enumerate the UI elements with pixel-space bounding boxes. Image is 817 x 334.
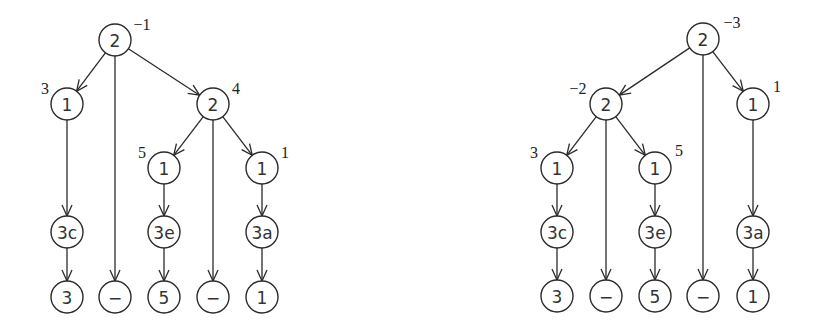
tree-node: 1: [246, 281, 278, 313]
edge-b1-c3e: [159, 184, 169, 216]
node-label: 2: [208, 95, 219, 115]
node-annotation: −3: [723, 14, 740, 31]
node-label: 1: [159, 159, 170, 179]
node-label: 5: [159, 288, 170, 308]
node-label: 3e: [644, 223, 665, 243]
tree-node: 13: [41, 80, 83, 121]
edge-r-b: [713, 52, 743, 92]
node-label: 1: [257, 159, 268, 179]
tree-node: 13: [530, 144, 573, 185]
tree-node: −: [687, 280, 719, 312]
node-annotation: 1: [281, 144, 289, 161]
tree-node: 5: [639, 280, 671, 312]
node-label: 3: [62, 288, 73, 308]
edge-c3a-l5: [748, 248, 758, 280]
tree-node: 2−2: [569, 80, 622, 121]
node-annotation: 3: [41, 80, 49, 97]
node-label: 3a: [742, 223, 763, 243]
node-label: 1: [62, 95, 73, 115]
node-label: 2: [698, 30, 709, 50]
node-label: 3: [552, 287, 563, 307]
edge-r-a: [77, 53, 106, 91]
edge-line: [77, 53, 106, 91]
node-label: 3c: [547, 223, 567, 243]
edge-line: [174, 117, 204, 156]
tree-node: 3a: [737, 216, 769, 248]
tree-node: 3e: [639, 216, 671, 248]
node-label: 1: [257, 288, 268, 308]
right-tree: 2−32−21113153c3e3a3−5−1: [530, 14, 781, 313]
edge-line: [619, 48, 689, 95]
edge-a-a1: [567, 117, 597, 156]
node-annotation: 1: [773, 78, 781, 95]
tree-node: 3a: [246, 216, 278, 248]
node-annotation: 5: [675, 142, 683, 159]
node-label: −: [696, 287, 710, 307]
edge-a-c3c: [62, 120, 72, 216]
edge-c3e-l3: [650, 248, 660, 280]
tree-node: 15: [138, 144, 180, 185]
tree-node: 3c: [51, 216, 83, 248]
tree-node: −: [99, 281, 131, 313]
edge-c3a-l5: [257, 248, 267, 281]
node-label: 2: [110, 31, 121, 51]
node-label: 1: [650, 159, 661, 179]
edge-b-b1: [174, 117, 204, 156]
tree-node: 3: [541, 280, 573, 312]
node-label: 3e: [153, 223, 174, 243]
tree-node: 5: [148, 281, 180, 313]
edge-r-l2: [110, 56, 120, 281]
edge-b-l4: [208, 120, 218, 281]
edge-line: [616, 117, 646, 156]
edge-b-b2: [223, 117, 253, 156]
tree-node: −: [197, 281, 229, 313]
left-tree: 2−1132415113c3e3a3−5−1: [41, 16, 289, 314]
edge-line: [567, 117, 597, 156]
node-label: 3a: [251, 223, 272, 243]
tree-node: 3e: [148, 216, 180, 248]
edge-line: [128, 49, 199, 96]
node-annotation: −2: [569, 80, 586, 97]
tree-node: 15: [639, 142, 683, 185]
edge-a2-c3e: [650, 184, 660, 216]
edge-a-a2: [616, 117, 646, 156]
tree-node: 2−3: [687, 14, 741, 56]
node-label: 5: [650, 287, 661, 307]
edge-r-b: [128, 49, 199, 96]
edge-a-l2: [601, 120, 611, 280]
tree-node: −: [590, 280, 622, 312]
node-label: 1: [748, 287, 759, 307]
tree-node: 11: [737, 78, 781, 121]
edge-line: [713, 52, 743, 92]
edge-c3c-l1: [62, 248, 72, 281]
node-label: 3c: [57, 223, 77, 243]
edge-line: [223, 117, 253, 156]
edge-b-c3a: [748, 120, 758, 216]
tree-node: 3: [51, 281, 83, 313]
tree-node: 2−1: [99, 16, 151, 57]
node-label: 2: [601, 95, 612, 115]
tree-node: 3c: [541, 216, 573, 248]
node-annotation: 4: [232, 80, 240, 97]
node-label: 1: [748, 95, 759, 115]
node-annotation: 5: [138, 144, 146, 161]
tree-diagram: 2−1132415113c3e3a3−5−1 2−32−21113153c3e3…: [0, 0, 817, 334]
edge-r-a: [619, 48, 689, 95]
edge-b2-c3a: [257, 184, 267, 216]
tree-node: 11: [246, 144, 289, 185]
edge-c3c-l1: [552, 248, 562, 280]
tree-node: 1: [737, 280, 769, 312]
node-label: −: [206, 288, 220, 308]
node-annotation: −1: [133, 16, 150, 33]
tree-node: 24: [197, 80, 240, 121]
node-annotation: 3: [530, 144, 538, 161]
edge-r-l4: [698, 55, 708, 280]
node-label: 1: [552, 159, 563, 179]
edge-c3e-l3: [159, 248, 169, 281]
edge-a1-c3c: [552, 184, 562, 216]
node-label: −: [108, 288, 122, 308]
node-label: −: [599, 287, 613, 307]
